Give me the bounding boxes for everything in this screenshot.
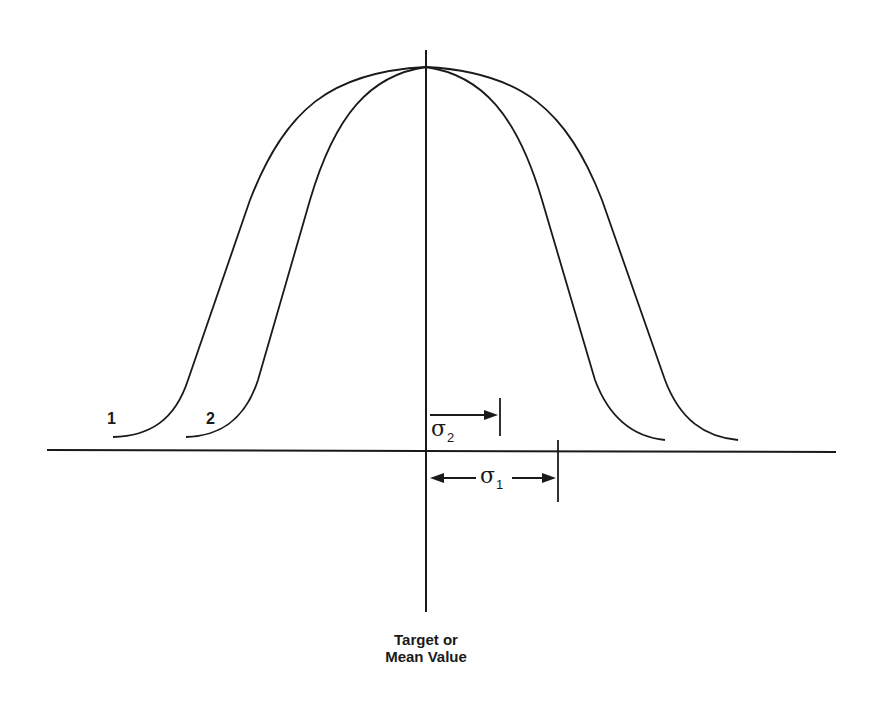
curve-2-label: 2 <box>206 410 215 428</box>
distribution-diagram <box>0 0 880 708</box>
sigma-2-subscript: 2 <box>447 430 454 445</box>
sigma-2-arrowhead-icon <box>484 410 498 420</box>
curve-1-label: 1 <box>107 410 116 428</box>
sigma-1-right-arrowhead-icon <box>542 473 556 483</box>
horizontal-axis <box>47 450 836 452</box>
sigma-1-label: σ1 <box>480 465 503 487</box>
sigma-1-left-arrowhead-icon <box>430 473 444 483</box>
sigma-1-subscript: 1 <box>496 477 503 492</box>
sigma-2-label: σ2 <box>431 418 454 440</box>
sigma-2-symbol: σ <box>431 416 446 441</box>
mean-axis-caption: Target or Mean Value <box>356 631 496 665</box>
mean-axis-caption-line1: Target or <box>356 631 496 648</box>
sigma-1-symbol: σ <box>480 463 495 488</box>
mean-axis-caption-line2: Mean Value <box>356 648 496 665</box>
